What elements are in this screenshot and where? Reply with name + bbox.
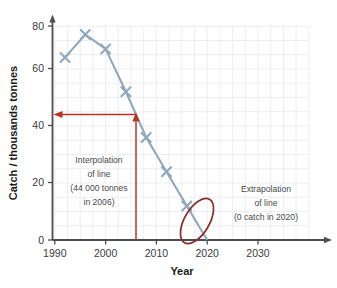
extrapolation-line [187,206,207,240]
data-point-2004 [121,87,130,96]
extrap-line-3: (0 catch in 2020) [234,212,298,222]
extrapolation-note: Extrapolation of line (0 catch in 2020) [234,184,298,222]
data-line [65,35,187,206]
y-tick-label-60: 60 [32,62,44,74]
y-tick-label-40: 40 [32,119,44,131]
interpolation-note: Interpolation of line (44 000 tonnes in … [70,155,127,207]
x-tick-label-2010: 2010 [145,247,169,259]
x-tick-label-2000: 2000 [94,247,118,259]
x-tick-label-2030: 2030 [246,247,270,259]
line-chart-figure: 80 60 40 20 0 1990 2000 2010 2020 2030 Y… [0,0,337,288]
y-tick-label-80: 80 [32,20,44,32]
data-point-1992 [61,53,70,62]
interp-line-2: of line [88,169,111,179]
interp-line-3: (44 000 tonnes [70,183,127,193]
x-axis-title: Year [170,265,194,277]
y-tick-label-20: 20 [32,176,44,188]
x-tick-label-2020: 2020 [196,247,220,259]
interp-line-4: in 2006) [83,197,114,207]
y-axis-title: Catch / thousands tonnes [7,66,19,200]
extrap-line-2: of line [255,198,278,208]
y-tick-label-0: 0 [38,234,44,246]
interp-line-1: Interpolation [75,155,123,165]
chart-container: 80 60 40 20 0 1990 2000 2010 2020 2030 Y… [0,0,337,288]
extrap-line-1: Extrapolation [241,184,291,194]
x-tick-label-1990: 1990 [43,247,67,259]
data-point-1996 [81,30,90,39]
